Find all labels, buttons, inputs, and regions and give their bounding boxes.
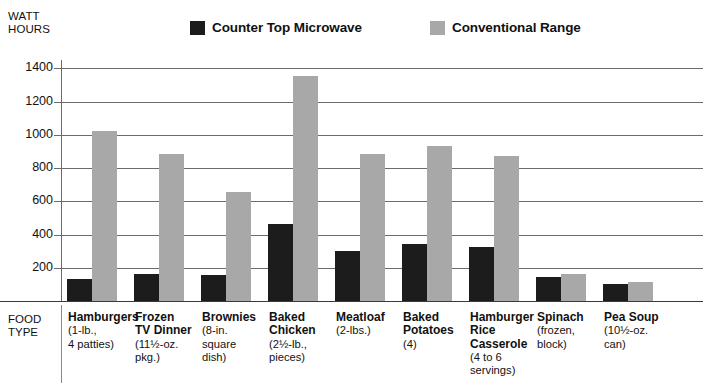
category-name: Baked	[403, 311, 472, 324]
category-label: BakedPotatoes(4)	[403, 311, 472, 351]
category-detail: can)	[604, 338, 673, 351]
category-detail: (8-in.	[202, 324, 271, 337]
category-detail: (10½-oz.	[604, 324, 673, 337]
category-name: Spinach	[537, 311, 606, 324]
y-tick	[54, 201, 61, 202]
gridline	[61, 135, 703, 136]
chart-legend: Counter Top Microwave Conventional Range	[190, 20, 690, 40]
bar	[628, 282, 653, 301]
y-tick	[54, 68, 61, 69]
bar	[360, 154, 385, 301]
y-axis-title: WATT HOURS	[8, 10, 50, 36]
category-label: BakedChicken(2½-lb.,pieces)	[269, 311, 338, 364]
category-name: Potatoes	[403, 324, 472, 337]
bar	[561, 274, 586, 301]
bar	[603, 284, 628, 301]
category-detail: pkg.)	[135, 351, 204, 364]
y-tick	[54, 102, 61, 103]
chart-page: WATT HOURS Counter Top Microwave Convent…	[0, 0, 706, 386]
x-axis-line	[0, 301, 703, 302]
y-axis-tick-label: 200	[9, 261, 53, 273]
y-axis-tick-label: 800	[9, 161, 53, 173]
category-detail: block)	[537, 338, 606, 351]
bar	[92, 131, 117, 301]
y-axis-line	[61, 60, 62, 302]
category-detail: (11½-oz.	[135, 338, 204, 351]
bar	[494, 156, 519, 301]
y-axis-tick-label: 400	[9, 228, 53, 240]
gridline	[61, 68, 703, 69]
category-name: Frozen	[135, 311, 204, 324]
y-axis-title-line1: WATT	[8, 10, 50, 23]
category-name: Chicken	[269, 324, 338, 337]
bar	[268, 224, 293, 301]
x-axis-header-line2: TYPE	[8, 326, 56, 339]
bar	[226, 192, 251, 301]
category-name: TV Dinner	[135, 324, 204, 337]
category-label: FrozenTV Dinner(11½-oz.pkg.)	[135, 311, 204, 364]
y-axis-tick-label: 1000	[9, 128, 53, 140]
category-label: Brownies(8-in.squaredish)	[202, 311, 271, 364]
bar	[159, 154, 184, 301]
bar	[67, 279, 92, 301]
bar	[402, 244, 427, 301]
y-tick	[54, 268, 61, 269]
legend-item-range: Conventional Range	[430, 20, 581, 35]
category-label: Pea Soup(10½-oz.can)	[604, 311, 673, 351]
category-label: Hamburgers(1-lb.,4 patties)	[68, 311, 137, 351]
category-detail: (2½-lb.,	[269, 338, 338, 351]
label-divider	[61, 305, 62, 383]
category-detail: dish)	[202, 351, 271, 364]
y-axis-tick-label: 1400	[9, 61, 53, 73]
category-name: Meatloaf	[336, 311, 405, 324]
bar	[134, 274, 159, 301]
x-axis-header: FOOD TYPE	[8, 313, 56, 339]
plot-area: 200400600800100012001400	[61, 60, 703, 301]
category-name: Brownies	[202, 311, 271, 324]
category-detail: (4)	[403, 338, 472, 351]
category-detail: square	[202, 338, 271, 351]
legend-item-microwave: Counter Top Microwave	[190, 20, 362, 35]
legend-label-range: Conventional Range	[452, 20, 581, 35]
y-tick	[54, 235, 61, 236]
x-axis-header-line1: FOOD	[8, 313, 56, 326]
category-label: Spinach(frozen,block)	[537, 311, 606, 351]
bar	[201, 275, 226, 301]
bar	[469, 247, 494, 301]
category-name: Hamburger	[470, 311, 539, 324]
legend-swatch-range	[430, 21, 445, 35]
category-name: Baked	[269, 311, 338, 324]
category-label-row: FOOD TYPE Hamburgers(1-lb.,4 patties)Fro…	[0, 303, 706, 386]
category-name: Pea Soup	[604, 311, 673, 324]
category-detail: (4 to 6	[470, 351, 539, 364]
legend-swatch-microwave	[190, 21, 205, 35]
y-axis-tick-label: 1200	[9, 95, 53, 107]
bar	[427, 146, 452, 301]
category-name: Rice	[470, 324, 539, 337]
y-axis-title-line2: HOURS	[8, 23, 50, 36]
category-name: Casserole	[470, 338, 539, 351]
y-tick	[54, 135, 61, 136]
category-detail: (frozen,	[537, 324, 606, 337]
y-tick	[54, 168, 61, 169]
category-label: HamburgerRiceCasserole(4 to 6servings)	[470, 311, 539, 378]
legend-label-microwave: Counter Top Microwave	[212, 20, 362, 35]
gridline	[61, 102, 703, 103]
bar	[293, 76, 318, 301]
category-detail: 4 patties)	[68, 338, 137, 351]
category-detail: pieces)	[269, 351, 338, 364]
category-detail: (1-lb.,	[68, 324, 137, 337]
bar	[536, 277, 561, 301]
bar	[335, 251, 360, 301]
category-detail: (2-lbs.)	[336, 324, 405, 337]
y-axis-tick-label: 600	[9, 194, 53, 206]
category-name: Hamburgers	[68, 311, 137, 324]
category-label: Meatloaf(2-lbs.)	[336, 311, 405, 338]
category-detail: servings)	[470, 364, 539, 377]
